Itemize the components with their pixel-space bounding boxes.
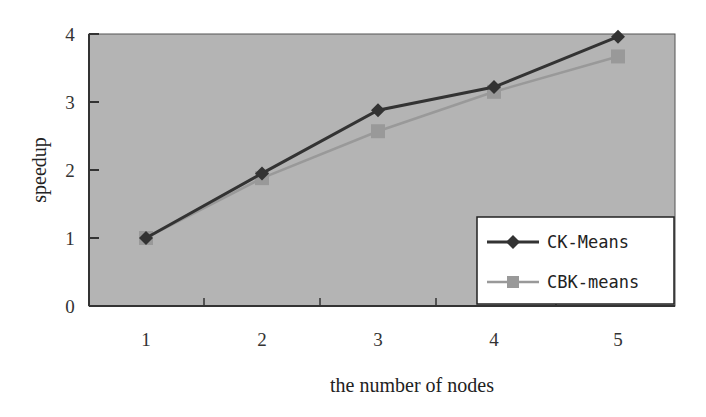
legend-label-ck-means: CK-Means [547,232,629,252]
square-marker-icon [507,276,519,288]
y-tick-label: 2 [65,160,75,181]
y-tick-label: 3 [65,92,75,113]
x-tick-label: 1 [141,329,151,350]
square-marker-icon [611,49,625,63]
y-tick-label: 0 [65,296,75,317]
x-tick-label: 2 [257,329,267,350]
legend-label-cbk-means: CBK-means [547,272,639,292]
legend: CK-Means CBK-means [477,217,674,304]
x-axis-title: the number of nodes [330,374,494,396]
y-tick-label: 1 [65,228,75,249]
x-tick-label: 4 [489,329,499,350]
square-marker-icon [371,124,385,138]
y-tick-label: 4 [65,24,75,45]
y-axis-title: speedup [28,137,51,203]
x-tick-label: 5 [613,329,623,350]
x-tick-label: 3 [373,329,383,350]
speedup-chart: 01234 12345 speedup the number of nodes … [0,0,706,417]
